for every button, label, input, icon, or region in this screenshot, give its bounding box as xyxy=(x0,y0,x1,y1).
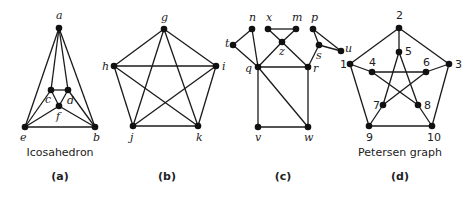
edge-9-1 xyxy=(350,64,369,126)
vertex-label-5: 5 xyxy=(405,45,412,58)
vertex-label-w: w xyxy=(304,131,314,144)
edge-g-k xyxy=(164,29,198,126)
vertex-j xyxy=(130,123,137,130)
vertex-5 xyxy=(396,49,403,56)
edge-6-7 xyxy=(383,72,426,105)
edge-i-j xyxy=(133,66,216,126)
edge-g-h xyxy=(114,29,164,66)
vertex-u xyxy=(338,48,345,55)
graph-a: acdfebIcosahedron(a) xyxy=(20,9,100,183)
vertex-p xyxy=(310,26,317,33)
edge-5-7 xyxy=(383,52,399,105)
vertex-q xyxy=(255,64,262,71)
vertex-x xyxy=(265,26,272,33)
vertex-v xyxy=(255,124,262,131)
vertex-k xyxy=(195,123,202,130)
vertex-6 xyxy=(423,69,430,76)
vertex-t xyxy=(230,42,237,49)
vertex-label-2: 2 xyxy=(396,9,403,22)
edge-q-w xyxy=(258,67,308,127)
vertex-label-b: b xyxy=(93,131,100,144)
edge-f-b xyxy=(59,106,95,127)
vertex-10 xyxy=(429,123,436,130)
caption-c: (c) xyxy=(275,170,292,183)
graph-name-a: Icosahedron xyxy=(26,146,93,159)
edge-h-j xyxy=(114,66,133,126)
vertex-s xyxy=(316,42,323,49)
graph-b: ghijk(b) xyxy=(102,11,226,183)
vertex-label-r: r xyxy=(313,62,319,75)
vertex-e xyxy=(22,124,29,131)
vertex-label-x: x xyxy=(266,11,273,24)
figure-canvas: acdfebIcosahedron(a)ghijk(b)tnxmzpsuqrvw… xyxy=(0,0,476,198)
vertex-9 xyxy=(366,123,373,130)
vertex-label-6: 6 xyxy=(423,56,430,69)
vertex-label-u: u xyxy=(345,42,352,55)
edge-z-r xyxy=(282,42,308,67)
vertex-7 xyxy=(380,102,387,109)
caption-b: (b) xyxy=(158,170,176,183)
edge-h-k xyxy=(114,66,198,126)
vertex-w xyxy=(305,124,312,131)
vertex-label-f: f xyxy=(55,110,62,123)
edge-a-e xyxy=(25,28,59,127)
vertex-f xyxy=(56,103,63,110)
vertex-label-j: j xyxy=(127,131,134,144)
graph-figure: acdfebIcosahedron(a)ghijk(b)tnxmzpsuqrvw… xyxy=(0,0,476,198)
edge-a-c xyxy=(51,28,59,90)
vertex-b xyxy=(92,124,99,131)
vertex-r xyxy=(305,64,312,71)
edge-i-k xyxy=(198,66,216,126)
caption-d: (d) xyxy=(391,170,409,183)
vertex-g xyxy=(161,26,168,33)
vertex-h xyxy=(111,63,118,70)
vertex-label-1: 1 xyxy=(340,58,347,71)
vertex-label-k: k xyxy=(196,131,203,144)
vertex-label-a: a xyxy=(56,9,63,22)
vertex-a xyxy=(56,25,63,32)
edge-a-d xyxy=(59,28,68,90)
vertex-8 xyxy=(415,102,422,109)
vertex-label-n: n xyxy=(249,11,256,24)
graph-name-d: Petersen graph xyxy=(358,146,442,159)
edge-3-10 xyxy=(432,64,449,126)
vertex-label-v: v xyxy=(255,131,262,144)
vertex-label-9: 9 xyxy=(366,131,373,144)
vertex-1 xyxy=(347,61,354,68)
vertex-label-i: i xyxy=(222,60,226,73)
edge-t-n xyxy=(233,29,252,45)
edge-5-8 xyxy=(399,52,418,105)
vertex-label-q: q xyxy=(245,62,252,75)
vertex-n xyxy=(249,26,256,33)
vertex-label-p: p xyxy=(311,11,318,24)
vertex-i xyxy=(213,63,220,70)
vertex-label-3: 3 xyxy=(455,58,462,71)
vertex-m xyxy=(293,26,300,33)
edge-a-b xyxy=(59,28,95,127)
graph-d: 21391054678Petersen graph(d) xyxy=(340,9,462,183)
edge-g-i xyxy=(164,29,216,66)
vertex-label-m: m xyxy=(292,11,302,24)
vertex-label-4: 4 xyxy=(369,56,376,69)
vertex-label-c: c xyxy=(45,93,51,106)
vertex-label-10: 10 xyxy=(427,131,441,144)
graph-c: tnxmzpsuqrvw(c) xyxy=(225,11,352,183)
edge-e-f xyxy=(25,106,59,127)
vertex-label-s: s xyxy=(316,49,322,62)
vertex-3 xyxy=(446,61,453,68)
edge-g-j xyxy=(133,29,164,126)
vertex-label-z: z xyxy=(278,45,285,58)
vertex-label-8: 8 xyxy=(424,99,431,112)
caption-a: (a) xyxy=(51,170,68,183)
vertex-label-t: t xyxy=(225,37,230,50)
vertex-label-h: h xyxy=(102,60,109,73)
edge-n-q xyxy=(252,29,258,67)
vertex-label-g: g xyxy=(161,11,168,24)
vertex-label-7: 7 xyxy=(373,99,380,112)
vertex-4 xyxy=(369,69,376,76)
vertex-d xyxy=(65,87,72,94)
vertex-2 xyxy=(396,25,403,32)
vertex-label-d: d xyxy=(67,94,74,107)
vertex-label-e: e xyxy=(20,131,27,144)
